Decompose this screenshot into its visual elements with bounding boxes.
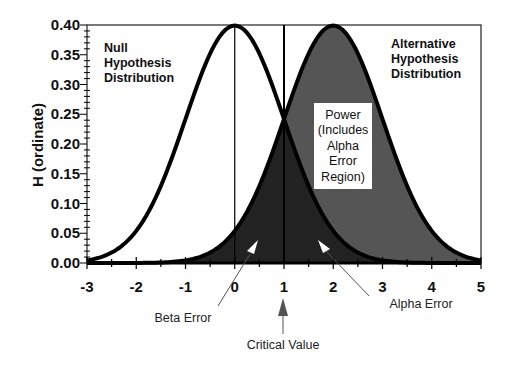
svg-text:(Includes: (Includes — [318, 123, 369, 137]
y-axis-tick-labels: 0.000.050.100.150.200.250.300.350.40 — [51, 16, 80, 271]
svg-text:Distribution: Distribution — [104, 71, 174, 85]
svg-text:Distribution: Distribution — [391, 67, 461, 81]
null-distribution-label: Null Hypothesis Distribution — [104, 41, 174, 85]
y-tick-label: 0.35 — [51, 46, 80, 63]
y-tick-label: 0.30 — [51, 76, 80, 93]
y-tick-label: 0.00 — [51, 254, 80, 271]
x-tick-label: 5 — [477, 278, 485, 295]
svg-text:Null: Null — [104, 41, 128, 55]
alternative-distribution-label: Alternative Hypothesis Distribution — [391, 37, 461, 81]
y-axis-title: H (ordinate) — [29, 103, 46, 187]
x-tick-label: -2 — [130, 278, 143, 295]
svg-text:Region): Region) — [321, 170, 365, 184]
y-tick-label: 0.40 — [51, 16, 80, 33]
x-tick-label: 4 — [428, 278, 437, 295]
beta-error-label: Beta Error — [155, 311, 212, 325]
svg-text:Error: Error — [329, 154, 357, 168]
y-tick-label: 0.20 — [51, 135, 80, 152]
svg-text:Hypothesis: Hypothesis — [104, 56, 171, 70]
svg-text:Power: Power — [325, 108, 360, 122]
x-tick-label: 2 — [329, 278, 337, 295]
alpha-error-label: Alpha Error — [389, 297, 452, 311]
svg-text:Alpha: Alpha — [327, 139, 359, 153]
y-tick-label: 0.05 — [51, 224, 80, 241]
y-tick-label: 0.15 — [51, 165, 80, 182]
x-tick-label: 1 — [280, 278, 288, 295]
x-tick-label: 0 — [231, 278, 239, 295]
x-tick-label: 3 — [378, 278, 386, 295]
x-axis-tick-labels: -3-2-1012345 — [80, 278, 485, 295]
x-tick-label: -3 — [80, 278, 93, 295]
y-tick-label: 0.25 — [51, 105, 80, 122]
critical-value-pointer: Critical Value — [247, 298, 320, 352]
y-axis-ticks — [80, 25, 90, 263]
svg-text:Hypothesis: Hypothesis — [391, 52, 458, 66]
power-label: Power (Includes Alpha Error Region) — [314, 103, 372, 189]
critical-value-arrow-icon — [278, 298, 288, 316]
svg-text:Alternative: Alternative — [391, 37, 456, 51]
hypothesis-chart: -3-2-1012345 0.000.050.100.150.200.250.3… — [0, 0, 511, 370]
critical-value-label: Critical Value — [247, 338, 320, 352]
x-tick-label: -1 — [179, 278, 192, 295]
y-tick-label: 0.10 — [51, 195, 80, 212]
